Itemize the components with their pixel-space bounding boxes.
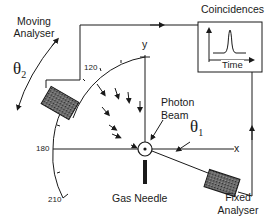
fixed-analyser-label-line2: Analyser bbox=[215, 205, 261, 216]
moving-analyser-label-line2: Analyser bbox=[12, 28, 56, 39]
angle-210-label: 210 bbox=[48, 196, 61, 204]
moving-analyser-label-line1: Moving bbox=[12, 16, 56, 27]
theta2-label: θ2 bbox=[13, 60, 26, 80]
emission-arrows bbox=[97, 84, 140, 147]
x-axis-label: x bbox=[234, 143, 239, 154]
y-axis-label: y bbox=[142, 39, 147, 50]
theta1-label: θ1 bbox=[190, 118, 203, 138]
coincidences-label: Coincidences bbox=[201, 4, 264, 15]
time-axis-label: Time bbox=[221, 60, 244, 70]
angle-180-label: 180 bbox=[36, 145, 49, 153]
moving-analyser-icon bbox=[41, 86, 79, 119]
gas-needle-icon bbox=[143, 160, 147, 184]
moving-signal-line bbox=[46, 25, 198, 88]
photon-beam-label-line1: Photon bbox=[161, 97, 194, 108]
moving-analyser-label: Moving Analyser bbox=[12, 16, 56, 38]
angle-scale-arc-lower bbox=[53, 109, 63, 198]
fixed-signal-line bbox=[238, 72, 252, 196]
angle-120-label: 120 bbox=[84, 64, 97, 72]
arc-ticks bbox=[57, 57, 150, 198]
fixed-analyser-label: Fixed Analyser bbox=[215, 192, 261, 215]
fixed-analyser-line bbox=[152, 151, 208, 173]
photon-beam-arrow bbox=[152, 120, 163, 138]
gas-needle-label: Gas Needle bbox=[112, 193, 167, 204]
fixed-analyser-label-line1: Fixed bbox=[215, 192, 261, 203]
